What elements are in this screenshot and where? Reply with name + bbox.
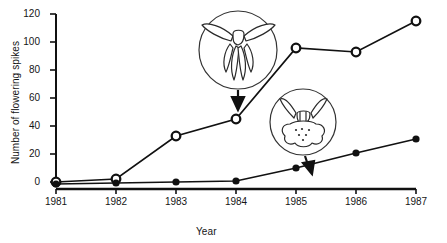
orchid-flower-narrow-petals-icon bbox=[199, 11, 277, 110]
plot-area bbox=[0, 0, 447, 243]
chart-figure: Number of flowering spikes Year 120 100 … bbox=[0, 0, 447, 243]
arrow-down-icon bbox=[303, 156, 314, 174]
series-filled-circle-line bbox=[56, 139, 416, 184]
arrow-down-icon bbox=[232, 90, 244, 110]
